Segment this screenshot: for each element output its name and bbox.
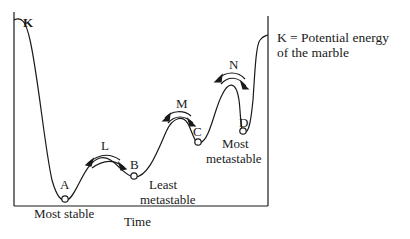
legend: K = Potential energy of the marble [277,30,389,60]
caption-metastable-b: metastable [140,193,196,207]
caption-least: Least [149,178,177,192]
transition-label-m: M [176,97,188,111]
marble-a [62,196,68,202]
caption-most-stable: Most stable [34,207,94,221]
caption-most: Most [222,137,249,151]
point-label-d: D [239,116,248,130]
marble-b [131,173,137,179]
legend-line-2: of the marble [277,45,389,60]
energy-curve [14,19,268,201]
point-label-c: C [193,125,202,139]
arrow-n-icon [215,73,248,89]
marble-c [195,139,201,145]
transition-label-l: L [101,139,109,153]
point-label-a: A [60,178,69,192]
point-label-b: B [130,158,139,172]
curve-label-k: K [23,16,33,30]
arrow-l-icon [86,155,126,170]
caption-metastable-d: metastable [206,152,262,166]
transition-label-n: N [229,58,238,72]
x-axis-label: Time [124,215,151,229]
legend-line-1: K = Potential energy [277,30,389,45]
